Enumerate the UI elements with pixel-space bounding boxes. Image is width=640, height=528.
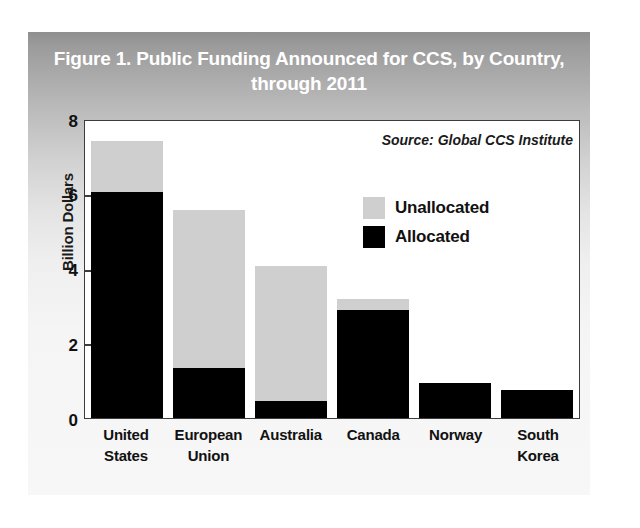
legend-swatch-icon [363, 197, 385, 219]
y-axis-tick-label-2: 2 [69, 337, 78, 354]
x-axis-label-european-union: European Union [172, 424, 244, 466]
y-axis-tick-label-4: 4 [69, 262, 78, 279]
y-axis-tick-label-8: 8 [69, 113, 78, 130]
x-axis-label-line: United [90, 424, 162, 445]
x-axis-label-line: Korea [502, 445, 574, 466]
y-axis-tick-label-0: 0 [69, 412, 78, 429]
bar-united-states[interactable] [91, 121, 163, 418]
figure-title-line-1: Figure 1. Public Funding Announced for C… [54, 48, 564, 69]
figure-title-line-2: through 2011 [251, 73, 367, 94]
x-axis-label-canada: Canada [337, 424, 409, 466]
x-axis-labels: United States European Union Australia C… [84, 424, 580, 466]
bar-european-union[interactable] [173, 121, 245, 418]
x-axis-label-south-korea: South Korea [502, 424, 574, 466]
bar-segment-allocated[interactable] [501, 390, 573, 418]
x-axis-label-line: Union [172, 445, 244, 466]
x-axis-label-australia: Australia [255, 424, 327, 466]
bar-segment-allocated[interactable] [173, 368, 245, 418]
bar-norway[interactable] [419, 121, 491, 418]
x-axis-label-line: South [502, 424, 574, 445]
x-axis-label-line: States [90, 445, 162, 466]
bar-segment-unallocated[interactable] [91, 141, 163, 191]
bar-segment-unallocated[interactable] [173, 210, 245, 368]
plot-area: Billion Dollars 8 6 4 2 0 [84, 120, 580, 419]
bar-south-korea[interactable] [501, 121, 573, 418]
source-note: Source: Global CCS Institute [328, 132, 573, 148]
x-axis-label-line: Australia [255, 424, 327, 445]
figure-card: Figure 1. Public Funding Announced for C… [28, 32, 590, 495]
legend-swatch-icon [363, 226, 385, 248]
x-axis-label-norway: Norway [420, 424, 492, 466]
bar-segment-allocated[interactable] [255, 401, 327, 418]
bar-segment-unallocated[interactable] [255, 266, 327, 402]
x-axis-label-united-states: United States [90, 424, 162, 466]
legend-item-allocated[interactable]: Allocated [363, 226, 489, 248]
bar-segment-unallocated[interactable] [337, 299, 409, 310]
legend-label-allocated: Allocated [395, 227, 470, 247]
legend-label-unallocated: Unallocated [395, 198, 489, 218]
bar-australia[interactable] [255, 121, 327, 418]
bar-group [85, 121, 579, 418]
y-axis-tick-label-6: 6 [69, 187, 78, 204]
legend-item-unallocated[interactable]: Unallocated [363, 197, 489, 219]
x-axis-label-line: Canada [337, 424, 409, 445]
bar-segment-allocated[interactable] [419, 383, 491, 418]
bar-segment-allocated[interactable] [337, 310, 409, 418]
bar-segment-allocated[interactable] [91, 192, 163, 418]
x-axis-label-line: European [172, 424, 244, 445]
bar-canada[interactable] [337, 121, 409, 418]
chart-legend: Unallocated Allocated [363, 197, 489, 255]
figure-title: Figure 1. Public Funding Announced for C… [48, 46, 570, 96]
x-axis-label-line: Norway [420, 424, 492, 445]
